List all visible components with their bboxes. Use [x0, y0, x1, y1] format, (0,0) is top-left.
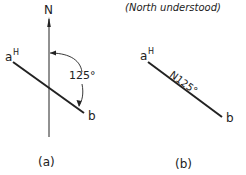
bearing-diagram: N 125° a H b (a) (North understood) N125…	[0, 0, 246, 175]
caption-b: (b)	[175, 157, 192, 171]
caption-a: (a)	[38, 155, 55, 169]
point-b-label: b	[88, 109, 96, 123]
north-label: N	[44, 3, 53, 17]
point-b-label: b	[226, 111, 234, 125]
point-a-superscript: H	[13, 48, 19, 57]
arc-arrowhead-start-icon	[50, 51, 56, 56]
point-a-label: a	[140, 49, 147, 63]
north-understood-note: (North understood)	[125, 2, 221, 13]
angle-label: 125°	[69, 69, 96, 82]
north-arrow-icon	[47, 17, 51, 27]
point-a-superscript: H	[148, 47, 154, 56]
bearing-label: N125°	[168, 69, 200, 97]
figure-a: N 125° a H b (a)	[5, 3, 96, 169]
figure-b: (North understood) N125° a H b (b)	[125, 2, 234, 171]
point-a-label: a	[5, 50, 12, 64]
